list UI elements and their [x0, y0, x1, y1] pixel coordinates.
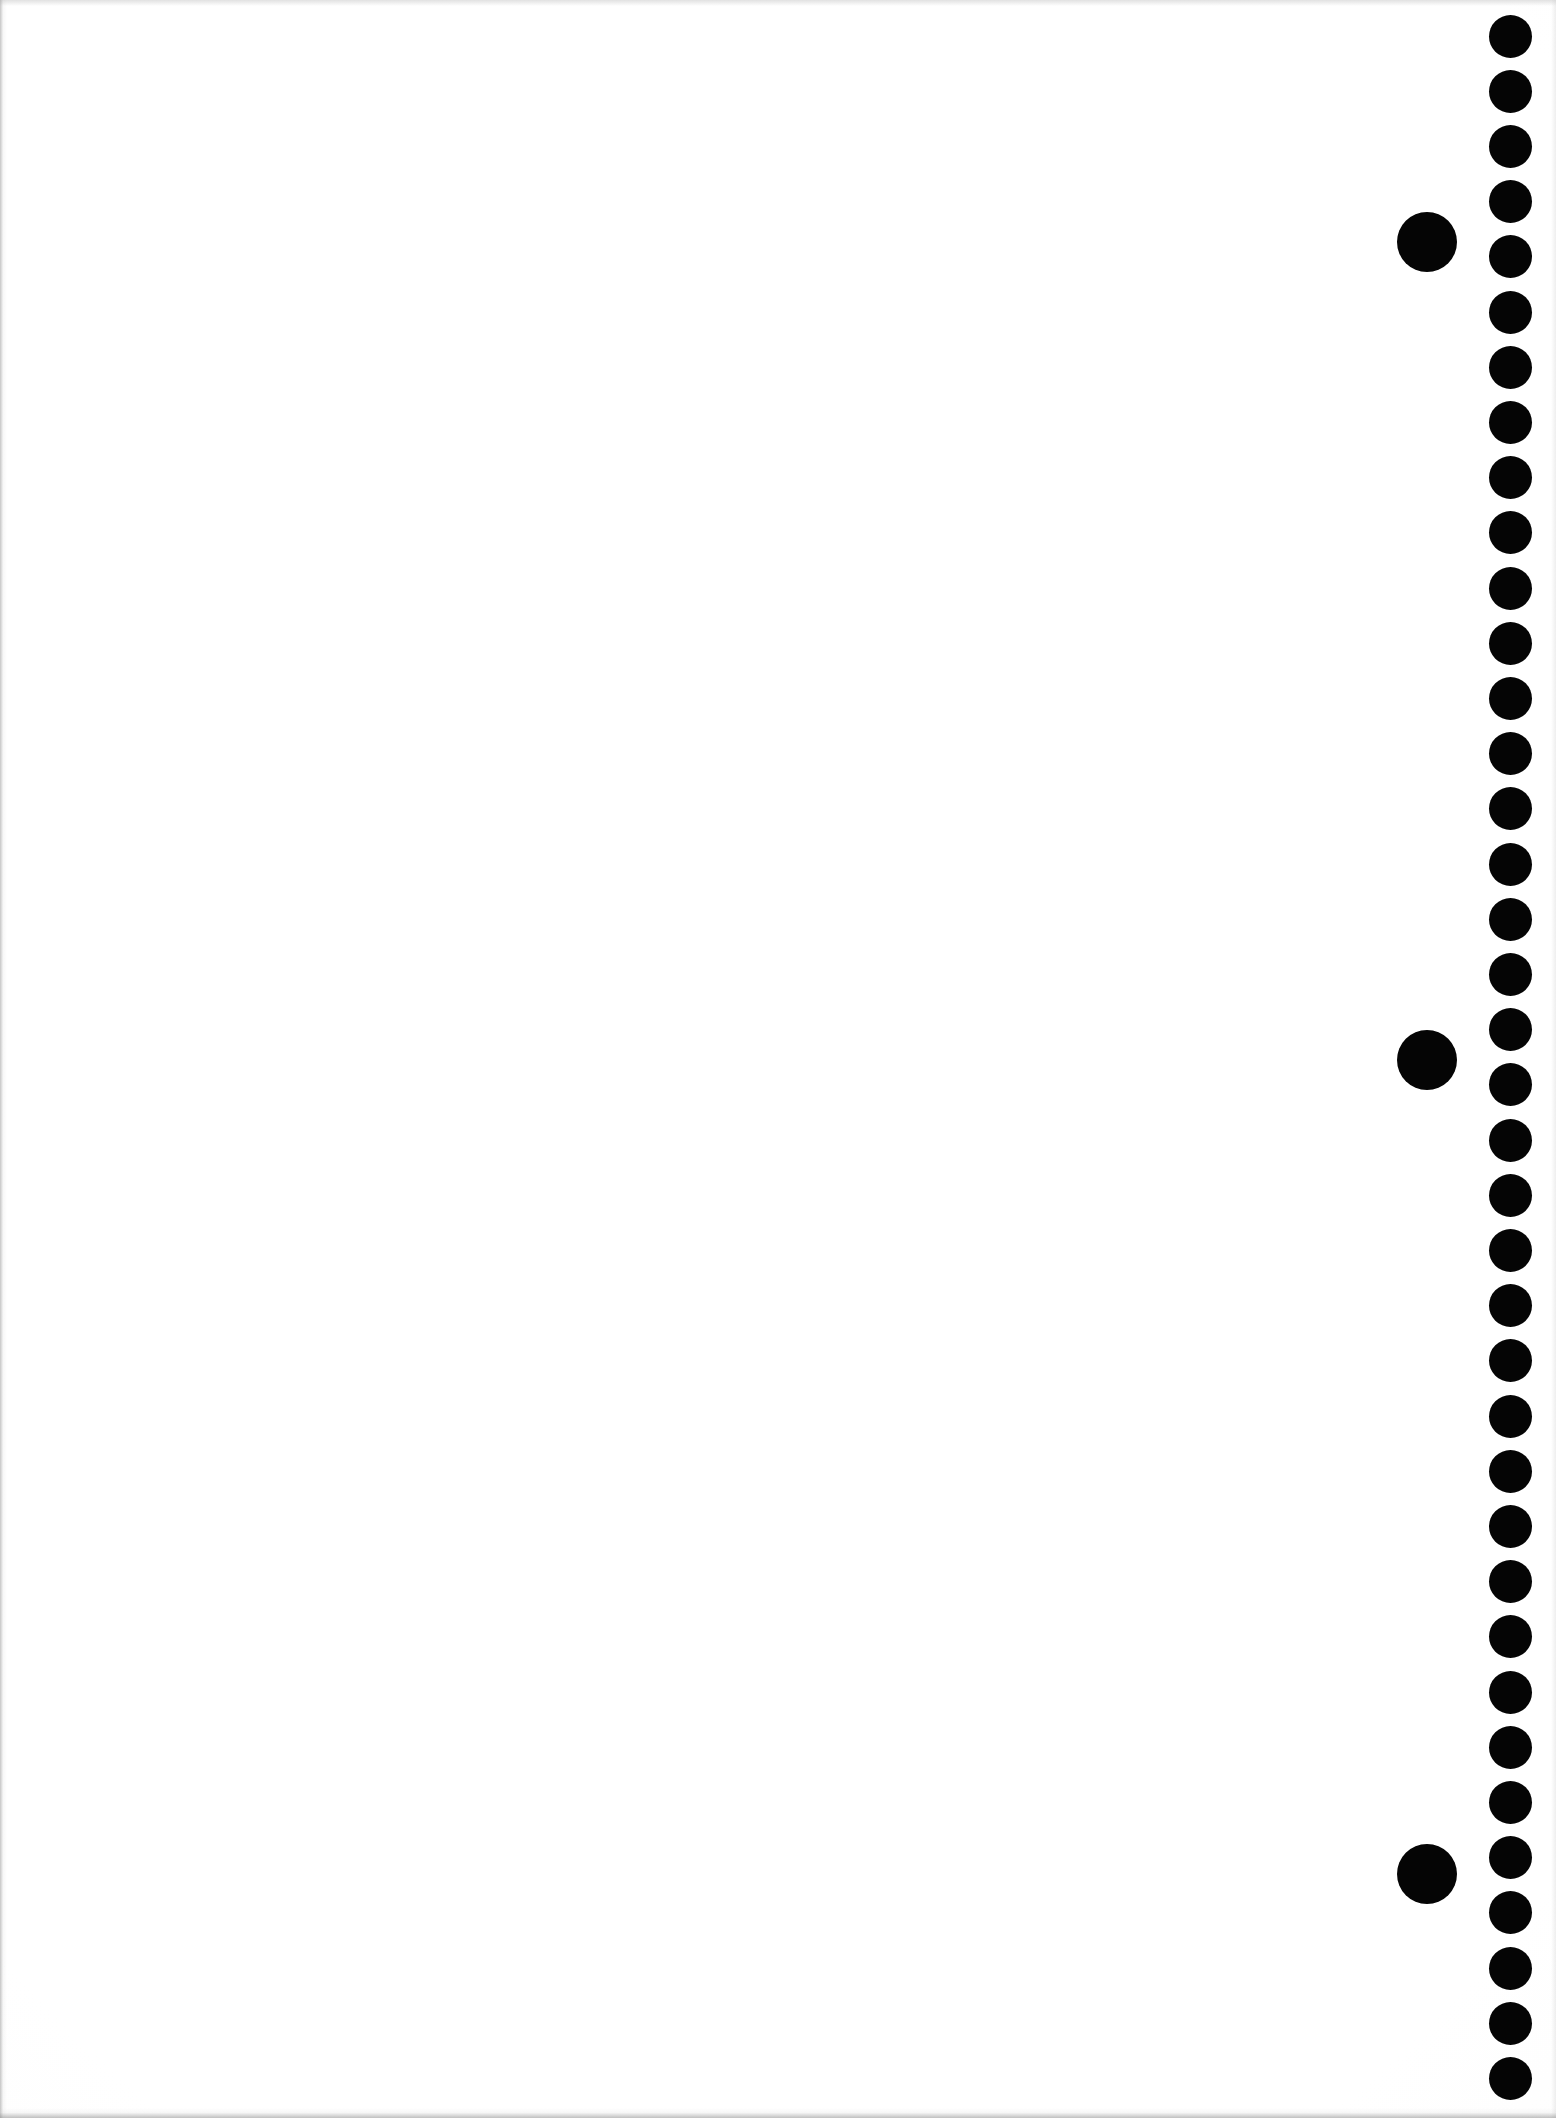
index-dot	[1397, 212, 1457, 272]
scanned-page	[0, 0, 1556, 2118]
index-dot	[1397, 1844, 1457, 1904]
index-dot	[1397, 1030, 1457, 1090]
index-dot-column	[0, 0, 1556, 2118]
